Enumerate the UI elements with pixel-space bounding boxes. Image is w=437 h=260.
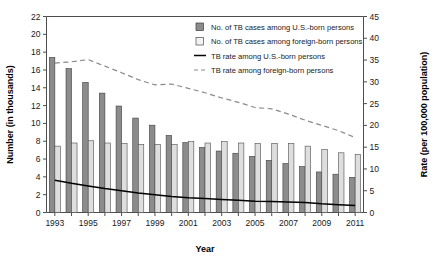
bar-foreign-born xyxy=(188,142,194,213)
bar-us-born xyxy=(133,118,139,212)
bar-foreign-born xyxy=(355,155,361,213)
y2-tick-label: 45 xyxy=(370,12,380,22)
bar-us-born xyxy=(199,147,205,212)
y2-tick-label: 5 xyxy=(370,186,375,196)
bar-us-born xyxy=(83,82,89,212)
y-tick-label: 14 xyxy=(31,83,41,93)
x-tick-label: 2005 xyxy=(246,218,265,228)
y2-tick-label: 35 xyxy=(370,55,380,65)
x-tick-label: 2003 xyxy=(212,218,231,228)
x-axis-title: Year xyxy=(195,244,215,254)
y-tick-label: 0 xyxy=(36,208,41,218)
tb-cases-and-rates-chart: 0246810121416182022051015202530354045199… xyxy=(0,0,437,260)
bar-us-born xyxy=(283,164,289,213)
x-tick-label: 2007 xyxy=(279,218,298,228)
bar-us-born xyxy=(149,125,155,212)
x-tick-label: 1993 xyxy=(45,218,64,228)
y2-tick-label: 30 xyxy=(370,77,380,87)
bar-foreign-born xyxy=(138,144,144,212)
y-tick-label: 2 xyxy=(36,190,41,200)
x-tick-label: 2001 xyxy=(179,218,198,228)
legend-label: TB rate among U.S.-born persons xyxy=(211,52,325,61)
legend-swatch-us-born-cases xyxy=(196,23,204,31)
bar-foreign-born xyxy=(155,144,161,212)
y-axis-title: Number (in thousands) xyxy=(5,65,15,164)
y-tick-label: 22 xyxy=(31,12,41,22)
y-tick-label: 10 xyxy=(31,118,41,128)
bar-foreign-born xyxy=(205,143,211,212)
bar-foreign-born xyxy=(238,143,244,212)
bar-us-born xyxy=(49,57,55,212)
y2-tick-label: 40 xyxy=(370,33,380,43)
bar-us-born xyxy=(99,93,105,212)
chart-legend: No. of TB cases among U.S.-born personsN… xyxy=(194,23,363,76)
y2-tick-label: 20 xyxy=(370,120,380,130)
y-tick-label: 6 xyxy=(36,154,41,164)
bar-foreign-born xyxy=(88,141,94,213)
x-tick-label: 1997 xyxy=(112,218,131,228)
bar-us-born xyxy=(233,153,239,212)
y-tick-label: 12 xyxy=(31,101,41,111)
y2-tick-label: 0 xyxy=(370,208,375,218)
x-tick-label: 1999 xyxy=(145,218,164,228)
bar-us-born xyxy=(166,135,172,212)
y-tick-label: 16 xyxy=(31,65,41,75)
bar-us-born xyxy=(316,172,322,213)
legend-swatch-foreign-born-cases xyxy=(196,38,204,46)
bar-foreign-born xyxy=(172,144,178,212)
y-tick-label: 8 xyxy=(36,136,41,146)
bar-us-born xyxy=(333,174,339,212)
bar-us-born xyxy=(116,106,122,212)
bar-us-born xyxy=(66,69,72,213)
legend-label: TB rate among foreign-born persons xyxy=(211,66,334,75)
bar-foreign-born xyxy=(322,150,328,213)
bar-us-born xyxy=(183,143,189,213)
y-tick-label: 4 xyxy=(36,172,41,182)
bar-foreign-born xyxy=(105,143,111,212)
y2-tick-label: 15 xyxy=(370,142,380,152)
y2-tick-label: 25 xyxy=(370,99,380,109)
bar-foreign-born xyxy=(255,143,261,212)
bar-us-born xyxy=(216,151,222,212)
bar-foreign-born xyxy=(55,146,61,212)
bar-foreign-born xyxy=(122,143,128,212)
legend-label: No. of TB cases among foreign-born perso… xyxy=(211,37,363,46)
x-tick-label: 1995 xyxy=(79,218,98,228)
bar-us-born xyxy=(350,177,356,212)
bar-us-born xyxy=(250,156,256,212)
y2-axis-title: Rate (per 100,000 population) xyxy=(419,52,429,178)
y2-tick-label: 10 xyxy=(370,164,380,174)
y-tick-label: 20 xyxy=(31,29,41,39)
y-tick-label: 18 xyxy=(31,47,41,57)
bar-foreign-born xyxy=(338,153,344,213)
bar-us-born xyxy=(266,160,272,212)
bar-us-born xyxy=(300,167,306,213)
chart-canvas: 0246810121416182022051015202530354045199… xyxy=(0,0,437,260)
bar-foreign-born xyxy=(72,143,78,212)
x-tick-label: 2009 xyxy=(312,218,331,228)
legend-label: No. of TB cases among U.S.-born persons xyxy=(211,23,354,32)
x-tick-label: 2011 xyxy=(346,218,365,228)
bar-foreign-born xyxy=(222,142,228,213)
